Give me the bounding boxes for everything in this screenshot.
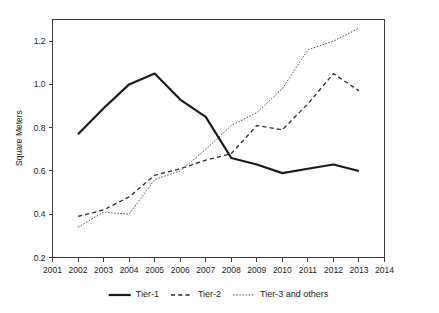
x-tick-label: 2001 [43,265,62,275]
y-tick-label: 0.2 [34,253,46,263]
legend-label-3: Tier-3 and others [260,289,329,299]
y-tick-label: 1.2 [34,36,46,46]
y-tick-label: 1.0 [34,79,46,89]
x-tick-label: 2010 [273,265,292,275]
y-tick-label: 0.8 [34,123,46,133]
x-tick-label: 2014 [375,265,394,275]
x-tick-label: 2006 [171,265,190,275]
series-line-2 [78,74,359,217]
x-tick-label: 2012 [324,265,343,275]
chart-canvas: 0.20.40.60.81.01.2 200120022003200420052… [0,0,439,313]
x-tick-label: 2002 [69,265,88,275]
x-tick-label: 2013 [350,265,369,275]
series-line-3 [78,28,359,227]
x-tick-label: 2003 [94,265,113,275]
data-series-group [78,28,359,227]
x-tick-label: 2007 [196,265,215,275]
legend-label-1: Tier-1 [136,289,159,299]
y-tick-label: 0.6 [34,166,46,176]
y-tick-label: 0.4 [34,209,46,219]
chart-legend: Tier-1Tier-2Tier-3 and others [109,289,329,299]
x-tick-label: 2008 [222,265,241,275]
line-chart: 0.20.40.60.81.01.2 200120022003200420052… [0,0,439,313]
x-tick-label: 2004 [120,265,139,275]
y-axis: 0.20.40.60.81.01.2 [34,36,53,262]
x-tick-label: 2009 [247,265,266,275]
x-axis: 2001200220032004200520062007200820092010… [43,258,394,275]
legend-label-2: Tier-2 [198,289,221,299]
y-axis-title: Square Meters [14,110,24,166]
x-tick-label: 2011 [299,265,318,275]
x-tick-label: 2005 [145,265,164,275]
series-line-1 [78,74,359,174]
